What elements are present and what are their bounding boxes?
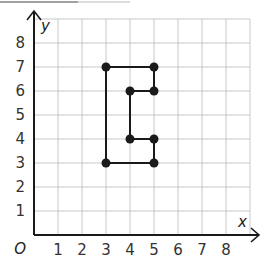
x-axis-label: x [237, 213, 247, 231]
vertex-point [150, 159, 159, 168]
x-tick-label: 7 [197, 241, 207, 259]
coordinate-grid-chart: 1234567812345678 x y O [0, 0, 274, 270]
grid-lines [34, 19, 250, 235]
origin-label: O [14, 240, 26, 258]
x-tick-label: 3 [101, 241, 111, 259]
x-tick-label: 1 [53, 241, 63, 259]
y-tick-label: 6 [15, 82, 25, 100]
vertex-point [126, 135, 135, 144]
vertex-point [150, 135, 159, 144]
x-tick-label: 8 [221, 241, 231, 259]
x-tick-label: 2 [77, 241, 87, 259]
axes [27, 11, 259, 242]
y-axis-label: y [40, 17, 51, 35]
y-tick-label: 2 [15, 178, 25, 196]
x-tick-label: 4 [125, 241, 135, 259]
y-tick-label: 1 [15, 202, 25, 220]
x-tick-label: 6 [173, 241, 183, 259]
vertex-point [150, 63, 159, 72]
y-tick-label: 5 [15, 106, 25, 124]
vertex-point [150, 87, 159, 96]
vertex-point [102, 63, 111, 72]
y-tick-label: 7 [15, 58, 25, 76]
x-tick-label: 5 [149, 241, 159, 259]
y-tick-label: 8 [15, 34, 25, 52]
y-tick-label: 4 [15, 130, 25, 148]
vertex-point [126, 87, 135, 96]
y-tick-label: 3 [15, 154, 25, 172]
vertex-point [102, 159, 111, 168]
